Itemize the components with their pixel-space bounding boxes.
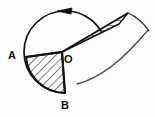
wedge-upper-edge (62, 13, 128, 52)
point-label-a: A (8, 50, 16, 61)
outer-arc-topright (128, 13, 149, 31)
geometry-canvas (0, 0, 155, 117)
point-label-o: O (64, 54, 73, 65)
direction-arrow-icon (57, 8, 72, 14)
point-label-b: B (61, 100, 69, 111)
wedge-lower-edge (62, 24, 119, 52)
geometry-figure: A O B (0, 0, 155, 117)
